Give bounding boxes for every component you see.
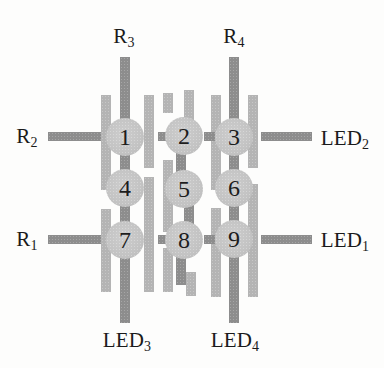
- r1-lead-trace: [48, 235, 101, 244]
- crossbar-figure: R3 R4 R2 R1 LED2 LED1 LED3 LED4 12345678…: [0, 0, 384, 368]
- contact-4: 4: [106, 169, 144, 207]
- row1-link-right-trace: [204, 132, 215, 141]
- contact-number: 8: [178, 228, 190, 252]
- label-led3: LED3: [103, 328, 152, 353]
- contact-6: 6: [215, 169, 253, 207]
- led2-lead-trace: [261, 132, 312, 141]
- label-r4-subscript: 4: [238, 35, 245, 50]
- mid-bottom-stub-trace: [186, 272, 196, 296]
- row3-link-right-trace: [204, 235, 215, 244]
- label-r1-text: R: [16, 227, 30, 251]
- label-led2: LED2: [321, 126, 370, 151]
- r2-lead-trace: [48, 132, 101, 141]
- led1-lead-trace: [261, 235, 312, 244]
- colA-right-flank-upper-trace: [144, 95, 154, 168]
- label-r3-subscript: 3: [128, 35, 135, 50]
- contact-number: 7: [119, 228, 131, 252]
- contact-2: 2: [165, 117, 203, 155]
- contact-7: 7: [106, 221, 144, 259]
- contact-9: 9: [215, 220, 253, 258]
- label-r1: R1: [16, 227, 37, 252]
- label-led1: LED1: [321, 228, 370, 253]
- label-r2-subscript: 2: [31, 135, 38, 150]
- label-r3: R3: [113, 24, 134, 49]
- contact-number: 6: [228, 176, 240, 200]
- label-led1-text: LED: [321, 228, 362, 252]
- mid-bottom-bar-trace: [176, 257, 186, 285]
- contact-number: 2: [178, 124, 190, 148]
- contact-number: 3: [228, 125, 240, 149]
- label-led4-text: LED: [211, 328, 252, 352]
- contact-8: 8: [165, 221, 203, 259]
- label-led1-subscript: 1: [362, 239, 369, 254]
- contact-number: 9: [228, 227, 240, 251]
- mid-left-stub-top-trace: [163, 93, 173, 113]
- label-led4-subscript: 4: [252, 339, 259, 354]
- label-r4: R4: [223, 24, 244, 49]
- label-led2-text: LED: [321, 126, 362, 150]
- label-led3-subscript: 3: [144, 339, 151, 354]
- contact-3: 3: [215, 118, 253, 156]
- label-led3-text: LED: [103, 328, 144, 352]
- label-r2-text: R: [16, 124, 30, 148]
- label-led4: LED4: [211, 328, 260, 353]
- contact-number: 5: [178, 177, 190, 201]
- label-r2: R2: [16, 124, 37, 149]
- colC-left-flank-lower-trace: [211, 208, 221, 297]
- label-r3-text: R: [113, 24, 127, 48]
- label-r4-text: R: [223, 24, 237, 48]
- contact-number: 1: [119, 125, 131, 149]
- contact-1: 1: [106, 118, 144, 156]
- label-r1-subscript: 1: [31, 238, 38, 253]
- label-led2-subscript: 2: [362, 137, 369, 152]
- contact-number: 4: [119, 176, 131, 200]
- contact-5: 5: [165, 170, 203, 208]
- colA-right-flank-lower-trace: [144, 177, 154, 292]
